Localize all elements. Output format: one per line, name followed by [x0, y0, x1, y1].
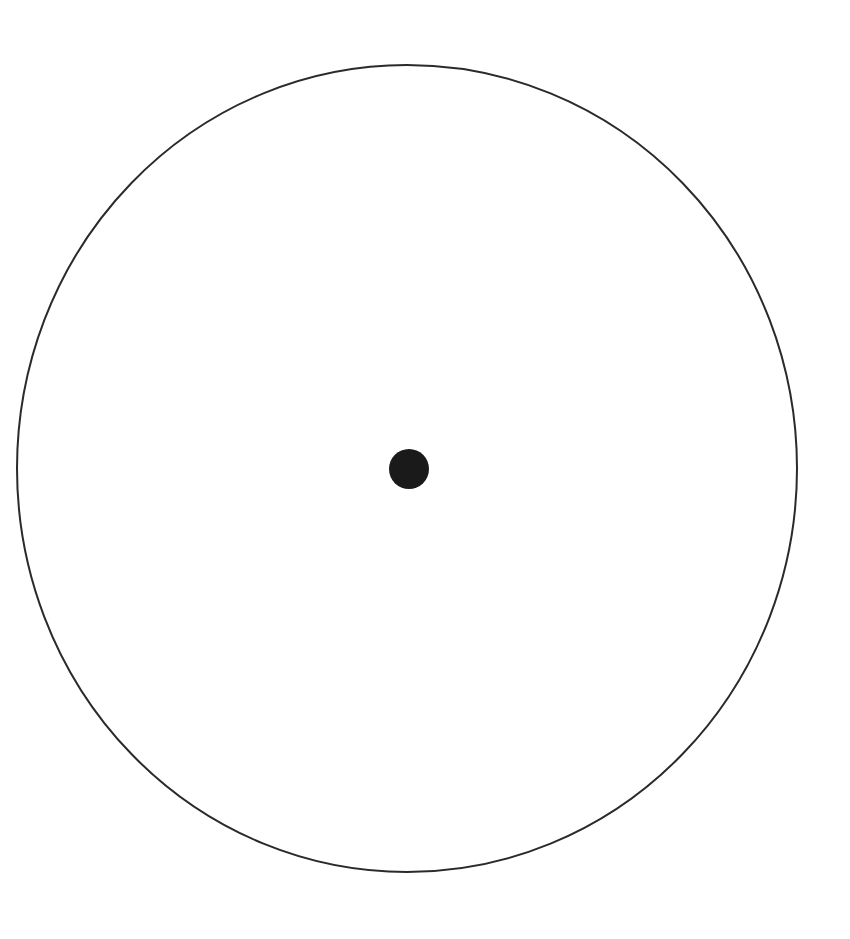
center-dot — [389, 449, 429, 489]
diagram-canvas — [0, 0, 850, 939]
